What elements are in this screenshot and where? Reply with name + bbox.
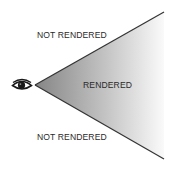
not-rendered-top-label: NOT RENDERED xyxy=(37,30,107,40)
eye-icon xyxy=(13,80,32,90)
not-rendered-bottom-label: NOT RENDERED xyxy=(37,132,107,142)
rendered-label: RENDERED xyxy=(83,80,132,90)
